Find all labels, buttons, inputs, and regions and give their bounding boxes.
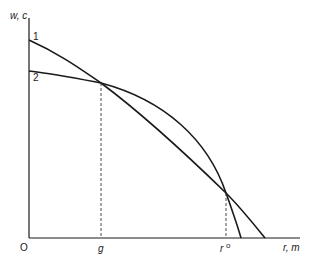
curve-1-label: 1	[33, 31, 39, 42]
x-axis-label: r, m	[283, 242, 300, 253]
g-label: g	[98, 243, 104, 254]
y-axis-label: w, c	[10, 10, 27, 21]
origin-label: O	[20, 242, 28, 253]
curve-1	[29, 40, 265, 238]
factor-price-frontier-diagram: w, c r, m O 1 2 g r o	[0, 0, 320, 264]
curve-2	[29, 71, 241, 238]
curve-2-label: 2	[33, 72, 39, 83]
r0-superscript: o	[226, 241, 231, 250]
r0-label: r	[220, 243, 224, 254]
